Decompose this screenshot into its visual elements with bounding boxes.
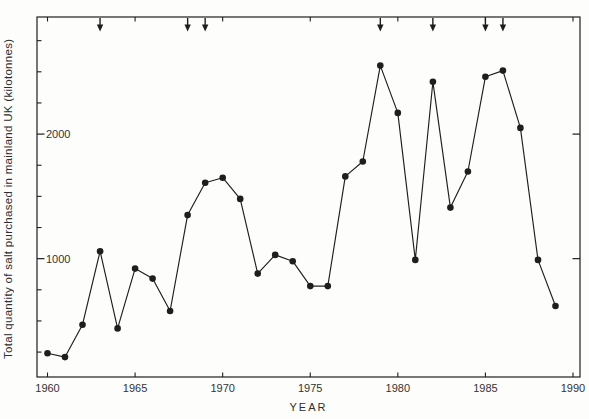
down-arrow-icon [500,25,506,32]
data-point [79,321,86,328]
data-point [342,173,349,180]
data-point [97,248,104,255]
data-point [272,252,279,259]
data-point [114,325,121,332]
data-point [289,258,296,265]
data-point [447,204,454,211]
data-point [465,168,472,175]
plot-border [37,17,580,377]
y-axis-title: Total quantity of salt purchased in main… [2,8,14,390]
data-point [184,212,191,219]
x-axis-tick-label: 1985 [473,382,497,394]
x-axis-title: YEAR [37,401,580,413]
data-point [202,179,209,186]
data-point [535,257,542,264]
data-point [307,283,314,290]
down-arrow-icon [430,25,436,32]
x-axis-tick-label: 1970 [210,382,234,394]
data-line [48,66,556,358]
down-arrow-icon [377,25,383,32]
salt-purchase-line-chart-figure: 196019651970197519801985199010002000 Tot… [0,0,589,419]
data-point [237,196,244,203]
down-arrow-icon [97,25,103,32]
data-point [149,275,156,282]
x-axis-tick-label: 1965 [123,382,147,394]
data-point [395,110,402,117]
data-point [132,265,139,272]
data-point [500,67,507,74]
data-point [325,283,332,290]
x-axis-tick-label: 1990 [561,382,585,394]
data-point [412,257,419,264]
data-point [552,303,559,310]
x-axis-tick-label: 1975 [298,382,322,394]
data-point [377,62,384,69]
chart-canvas: 196019651970197519801985199010002000 [0,0,589,419]
data-point [62,354,69,361]
y-axis-tick-label: 2000 [46,128,70,140]
data-point [167,308,174,315]
x-axis-tick-label: 1980 [386,382,410,394]
data-point [219,174,226,181]
data-point [254,270,261,277]
y-axis-tick-label: 1000 [46,253,70,265]
data-point [44,350,51,357]
down-arrow-icon [482,25,488,32]
data-point [482,74,489,81]
data-point [517,125,524,132]
down-arrow-icon [184,25,190,32]
down-arrow-icon [202,25,208,32]
x-axis-tick-label: 1960 [35,382,59,394]
data-point [430,79,437,86]
data-point [360,158,367,165]
